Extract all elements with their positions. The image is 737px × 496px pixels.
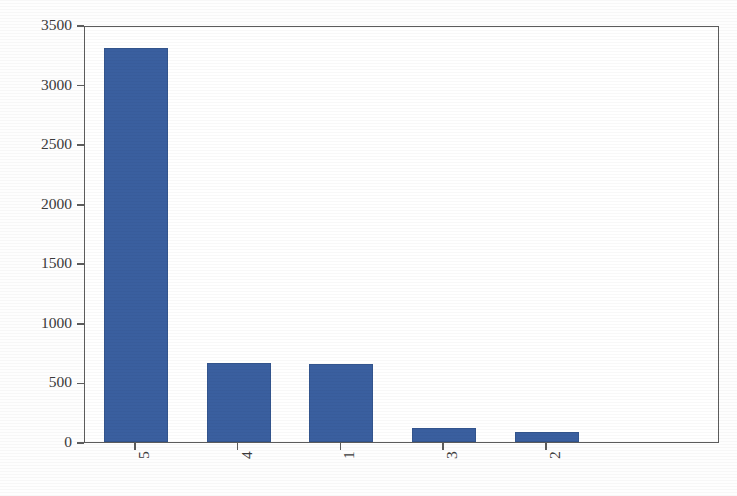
x-axis-tick-label: 5 [135, 446, 153, 464]
y-axis-tick-mark [77, 204, 84, 206]
y-axis-tick-label: 3000 [41, 76, 72, 94]
bar-category-4[interactable] [207, 363, 271, 442]
y-axis-tick-label: 500 [49, 373, 72, 391]
x-axis-tick-label: 1 [340, 446, 358, 464]
chart-title [0, 0, 737, 5]
bars-layer [85, 27, 718, 442]
plot-area [84, 26, 719, 443]
x-axis-tick-label: 3 [443, 446, 461, 464]
bar-category-2[interactable] [515, 432, 579, 442]
x-axis-tick-label: 4 [238, 446, 256, 464]
y-axis-tick-mark [77, 442, 84, 444]
bar-category-1[interactable] [309, 364, 373, 442]
y-axis-tick-mark [77, 323, 84, 325]
y-axis-tick-label: 0 [64, 433, 72, 451]
x-axis-tick-label: 2 [546, 446, 564, 464]
y-axis-tick-mark [77, 383, 84, 385]
y-axis-tick-mark [77, 85, 84, 87]
y-axis-tick-label: 1000 [41, 314, 72, 332]
y-axis-tick-label: 3500 [41, 16, 72, 34]
y-axis-tick-mark [77, 25, 84, 27]
y-axis-tick-mark [77, 263, 84, 265]
chart-figure: 0 500 1000 1500 2000 2500 3000 3500 [0, 0, 737, 496]
y-axis-tick-label: 2500 [41, 135, 72, 153]
y-axis-tick-mark [77, 144, 84, 146]
y-axis-tick-label: 1500 [41, 254, 72, 272]
bar-category-5[interactable] [104, 48, 168, 442]
y-axis-tick-label: 2000 [41, 195, 72, 213]
bar-category-3[interactable] [412, 428, 476, 442]
